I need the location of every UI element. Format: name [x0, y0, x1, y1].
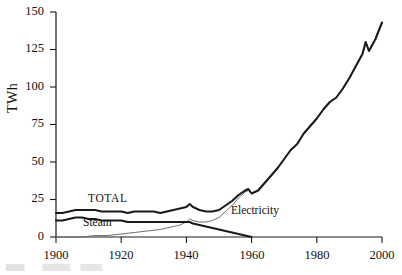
y-tick-150: 150: [14, 4, 44, 19]
y-axis-ticks: [50, 12, 56, 237]
x-tick-1960: 1960: [231, 248, 273, 263]
x-tick-1900: 1900: [35, 248, 77, 263]
series-label-total: TOTAL: [88, 192, 128, 204]
x-tick-2000: 2000: [361, 248, 402, 263]
y-tick-75: 75: [14, 116, 44, 131]
chart-plot-area: [0, 0, 402, 275]
series-line-electricity: [56, 23, 382, 238]
y-tick-0: 0: [14, 229, 44, 244]
x-tick-1980: 1980: [296, 248, 338, 263]
x-tick-1940: 1940: [165, 248, 207, 263]
series-label-steam: Steam: [83, 216, 112, 228]
chart-axes: [50, 12, 382, 243]
x-axis-ticks: [56, 237, 382, 243]
chart-series-group: [56, 23, 382, 238]
x-tick-1920: 1920: [100, 248, 142, 263]
page-footer-artifact: [6, 264, 156, 271]
y-axis-title: TWh: [5, 95, 21, 113]
series-line-total: [56, 23, 382, 214]
y-tick-50: 50: [14, 154, 44, 169]
line-chart-figure: TWh 150 125 100 75 50 25 0 1900 1920 194…: [0, 0, 402, 275]
y-tick-125: 125: [14, 41, 44, 56]
y-tick-25: 25: [14, 191, 44, 206]
y-tick-100: 100: [14, 79, 44, 94]
series-label-electricity: Electricity: [231, 204, 279, 216]
